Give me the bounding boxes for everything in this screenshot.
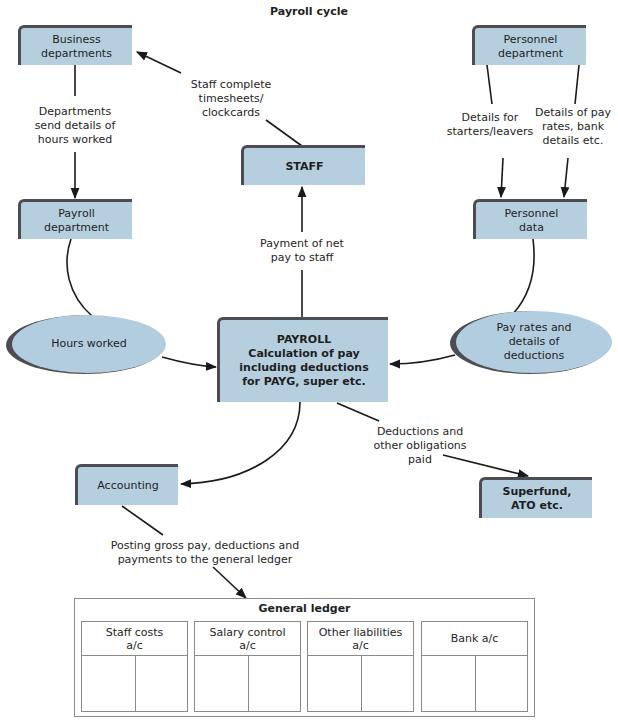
flow-departments-send: Departments send details of hours worked — [20, 105, 130, 147]
node-personnel-department: Personnel department — [472, 25, 586, 65]
diagram-title: Payroll cycle — [0, 5, 618, 18]
flow-staff-timesheets: Staff complete timesheets/ clockcards — [176, 78, 286, 120]
ledger-account-other-liabilities: Other liabilities a/c — [307, 621, 414, 712]
t-account-divider — [135, 656, 136, 711]
flow-deductions-paid: Deductions and other obligations paid — [350, 425, 490, 467]
flow-payment-net-pay: Payment of net pay to staff — [247, 237, 357, 265]
ledger-account-salary-control: Salary control a/c — [194, 621, 301, 712]
t-account-divider — [361, 656, 362, 711]
flow-starters-leavers: Details for starters/leavers — [440, 111, 540, 139]
node-business-departments: Business departments — [18, 25, 132, 65]
general-ledger: General ledger Staff costs a/c Salary co… — [74, 598, 535, 717]
arrow-staff-to-business — [266, 120, 302, 146]
ledger-title: General ledger — [75, 602, 534, 615]
node-hours-worked: Hours worked — [8, 315, 166, 373]
flow-pay-rates-bank: Details of pay rates, bank details etc. — [528, 106, 618, 148]
ledger-account-bank: Bank a/c — [421, 621, 528, 712]
node-superfund: Superfund, ATO etc. — [479, 477, 592, 518]
account-name: Staff costs a/c — [82, 622, 187, 656]
account-name: Salary control a/c — [195, 622, 300, 656]
node-staff: STAFF — [241, 145, 365, 185]
account-name: Bank a/c — [422, 622, 527, 656]
node-payroll: PAYROLL Calculation of pay including ded… — [217, 317, 388, 402]
ledger-account-staff-costs: Staff costs a/c — [81, 621, 188, 712]
node-payroll-department: Payroll department — [18, 199, 132, 239]
account-name: Other liabilities a/c — [308, 622, 413, 656]
node-pay-rates: Pay rates and details of deductions — [452, 311, 612, 373]
node-accounting: Accounting — [75, 464, 178, 505]
node-personnel-data: Personnel data — [473, 199, 587, 239]
t-account-divider — [248, 656, 249, 711]
flow-posting: Posting gross pay, deductions and paymen… — [90, 539, 320, 567]
t-account-divider — [475, 656, 476, 711]
